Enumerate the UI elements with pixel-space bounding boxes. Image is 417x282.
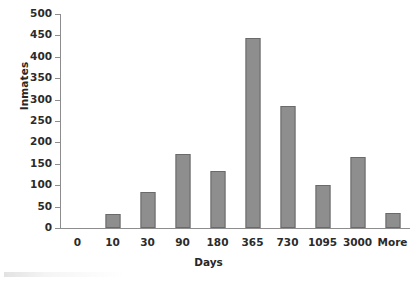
bar	[315, 185, 330, 228]
plot-area: 050100150200250300350400450500 010309018…	[60, 14, 410, 228]
bar	[280, 106, 295, 228]
x-tick-label: 3000	[343, 236, 372, 248]
x-tick-label: 730	[277, 236, 299, 248]
y-tick-label: 200	[30, 135, 52, 147]
x-tick-label: 1095	[308, 236, 337, 248]
x-tick-label: More	[378, 236, 408, 248]
x-tick-label: 180	[207, 236, 229, 248]
bar-slot	[200, 14, 235, 228]
scan-artifact	[4, 272, 124, 277]
y-tick-label: 50	[37, 200, 52, 212]
bar-slot	[305, 14, 340, 228]
bar-slot	[95, 14, 130, 228]
y-tick-label: 400	[30, 50, 52, 62]
x-tick-label: 30	[140, 236, 155, 248]
y-axis-title: Inmates	[18, 41, 30, 131]
bar-slot	[340, 14, 375, 228]
bar	[245, 38, 260, 228]
bar-slot	[375, 14, 410, 228]
y-tick-label: 450	[30, 28, 52, 40]
y-tick-label: 500	[30, 7, 52, 19]
bar-slot	[270, 14, 305, 228]
bar	[175, 154, 190, 228]
bar	[140, 192, 155, 228]
bar-slot	[165, 14, 200, 228]
x-tick-label: 365	[242, 236, 264, 248]
bar	[210, 171, 225, 228]
bar	[350, 157, 365, 228]
y-tick-label: 0	[45, 221, 52, 233]
bar	[385, 213, 400, 228]
x-axis-title: Days	[0, 256, 417, 268]
bar	[105, 214, 120, 228]
x-tick-label: 0	[74, 236, 81, 248]
y-tick-mark	[55, 228, 60, 229]
bar-slot	[60, 14, 95, 228]
y-tick-label: 250	[30, 114, 52, 126]
y-tick-label: 100	[30, 178, 52, 190]
bar-slot	[235, 14, 270, 228]
x-tick-label: 90	[175, 236, 190, 248]
bar-slot	[130, 14, 165, 228]
y-tick-label: 150	[30, 157, 52, 169]
y-tick-label: 300	[30, 93, 52, 105]
x-tick-label: 10	[105, 236, 120, 248]
bar-series	[60, 14, 410, 228]
y-tick-label: 350	[30, 71, 52, 83]
x-axis-line	[60, 228, 410, 229]
bar-chart-figure: Inmates 050100150200250300350400450500 0…	[0, 0, 417, 282]
